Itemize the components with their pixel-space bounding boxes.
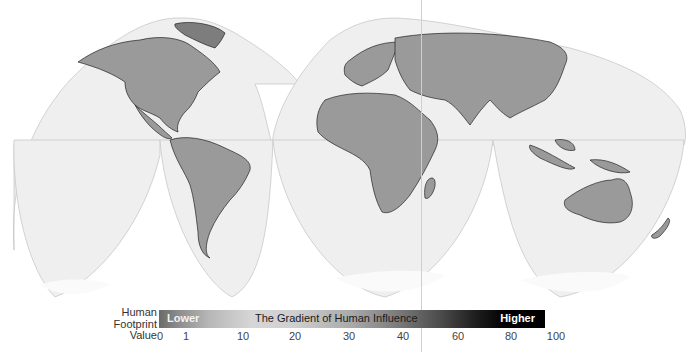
legend-lower-label: Lower — [167, 312, 199, 324]
legend-tick-label: 100 — [547, 330, 565, 342]
legend-label-line1: Human — [114, 307, 157, 319]
world-map — [0, 0, 687, 300]
legend-higher-label: Higher — [500, 312, 535, 324]
map-lobe-south-pacific — [14, 140, 160, 297]
legend-axis-label: Human Footprint Value — [114, 307, 157, 342]
page-crease-line — [421, 0, 422, 352]
legend-tick-label: 0 — [157, 330, 163, 342]
legend-tick-label: 60 — [452, 330, 464, 342]
legend-tick-label: 10 — [237, 330, 249, 342]
legend-tick-label: 30 — [343, 330, 355, 342]
legend-label-line3: Value — [114, 330, 157, 342]
legend-tick-label: 20 — [289, 330, 301, 342]
legend-tick-label: 80 — [505, 330, 517, 342]
legend-gradient-bar: Lower The Gradient of Human Influence Hi… — [159, 310, 545, 328]
legend-tick-label: 40 — [397, 330, 409, 342]
legend-tick-label: 1 — [183, 330, 189, 342]
legend-title: The Gradient of Human Influence — [255, 312, 418, 324]
